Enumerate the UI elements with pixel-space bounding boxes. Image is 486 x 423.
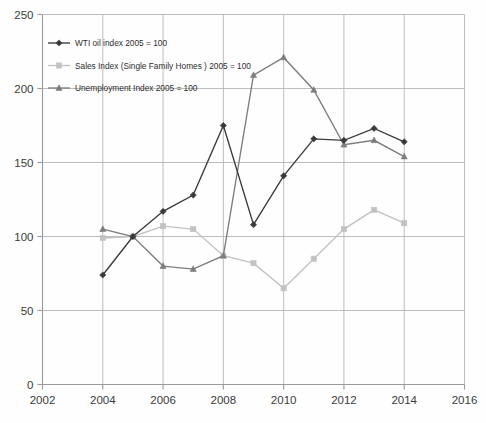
y-tick-label: 0: [27, 379, 33, 391]
data-point-marker: [100, 226, 106, 232]
line-chart: 0501001502002502002200420062008201020122…: [0, 0, 486, 423]
data-point-marker: [371, 207, 376, 212]
data-point-marker: [402, 221, 407, 226]
chart-canvas: 0501001502002502002200420062008201020122…: [0, 0, 486, 423]
y-tick-label: 200: [14, 83, 33, 95]
data-point-marker: [341, 137, 347, 143]
x-tick-label: 2002: [30, 394, 56, 406]
data-point-marker: [100, 235, 105, 240]
legend-label: Unemployment Index 2005 = 100: [75, 83, 198, 93]
data-point-marker: [220, 122, 226, 128]
data-point-marker: [251, 261, 256, 266]
data-point-marker: [190, 192, 196, 198]
legend-marker-icon: [56, 63, 61, 68]
y-axis-tick-labels: 050100150200250: [14, 9, 33, 391]
data-point-marker: [401, 139, 407, 145]
data-point-marker: [371, 125, 377, 131]
x-tick-label: 2008: [211, 394, 237, 406]
data-point-marker: [371, 137, 377, 143]
y-tick-label: 150: [14, 157, 33, 169]
y-tick-label: 50: [21, 305, 34, 317]
axes: [38, 15, 465, 390]
legend-item: Sales Index (Single Family Homes ) 2005 …: [48, 61, 251, 71]
legend-marker-icon: [56, 40, 62, 46]
legend: WTI oil index 2005 = 100Sales Index (Sin…: [48, 38, 251, 93]
data-point-marker: [160, 224, 165, 229]
data-point-marker: [191, 227, 196, 232]
data-point-marker: [281, 54, 287, 60]
x-tick-label: 2006: [150, 394, 176, 406]
legend-item: WTI oil index 2005 = 100: [48, 38, 167, 48]
data-point-marker: [311, 256, 316, 261]
legend-label: Sales Index (Single Family Homes ) 2005 …: [75, 61, 251, 71]
legend-item: Unemployment Index 2005 = 100: [48, 83, 198, 93]
x-tick-label: 2016: [452, 394, 478, 406]
x-axis-tick-labels: 20022004200620082010201220142016: [30, 394, 478, 406]
data-point-marker: [250, 222, 256, 228]
data-point-marker: [281, 286, 286, 291]
data-point-marker: [341, 227, 346, 232]
x-tick-label: 2012: [331, 394, 357, 406]
series-diamond: [100, 122, 408, 278]
y-tick-label: 100: [14, 231, 33, 243]
legend-label: WTI oil index 2005 = 100: [75, 38, 167, 48]
x-tick-label: 2010: [271, 394, 297, 406]
series-line: [103, 126, 404, 275]
x-tick-label: 2004: [90, 394, 116, 406]
data-point-marker: [250, 72, 256, 78]
x-tick-label: 2014: [391, 394, 417, 406]
y-tick-label: 250: [14, 9, 33, 21]
